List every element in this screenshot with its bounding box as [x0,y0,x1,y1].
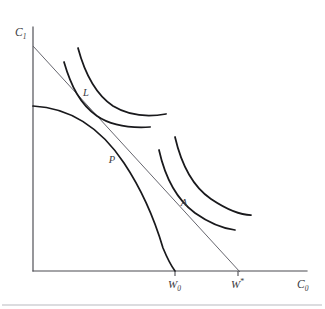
indifference-curves-lower-group [159,137,251,230]
capital-market-line [33,46,240,272]
capital-market-line-group [33,46,240,272]
x-axis-label-sub: 0 [305,284,309,293]
y-axis-label: C1 [15,26,26,41]
point-labels-group: L P A [82,87,188,208]
y-axis-label-sub: 1 [23,32,27,41]
tick-label-w0: W0 [168,278,181,293]
tick-labels-group: W0 W* [168,277,244,293]
x-axis-ticks-group [175,271,238,276]
point-label-P: P [108,154,116,165]
production-possibility-frontier [33,106,175,271]
tick-label-wstar: W* [231,277,244,290]
indifference-curve-lower-inner [159,150,235,230]
indifference-curves-upper-group [64,48,166,127]
indifference-curve-upper-outer [78,48,166,116]
axes-group [33,27,307,271]
tick-label-wstar-sup: * [240,277,244,286]
figure-container: C1 C0 W0 W* L P A [0,0,325,309]
point-label-L: L [82,87,89,98]
point-label-A: A [180,197,188,208]
tick-label-w0-sub: 0 [177,284,181,293]
intertemporal-consumption-diagram: C1 C0 W0 W* L P A [0,0,325,309]
production-frontier-group [33,106,175,271]
x-axis-label: C0 [297,278,309,293]
